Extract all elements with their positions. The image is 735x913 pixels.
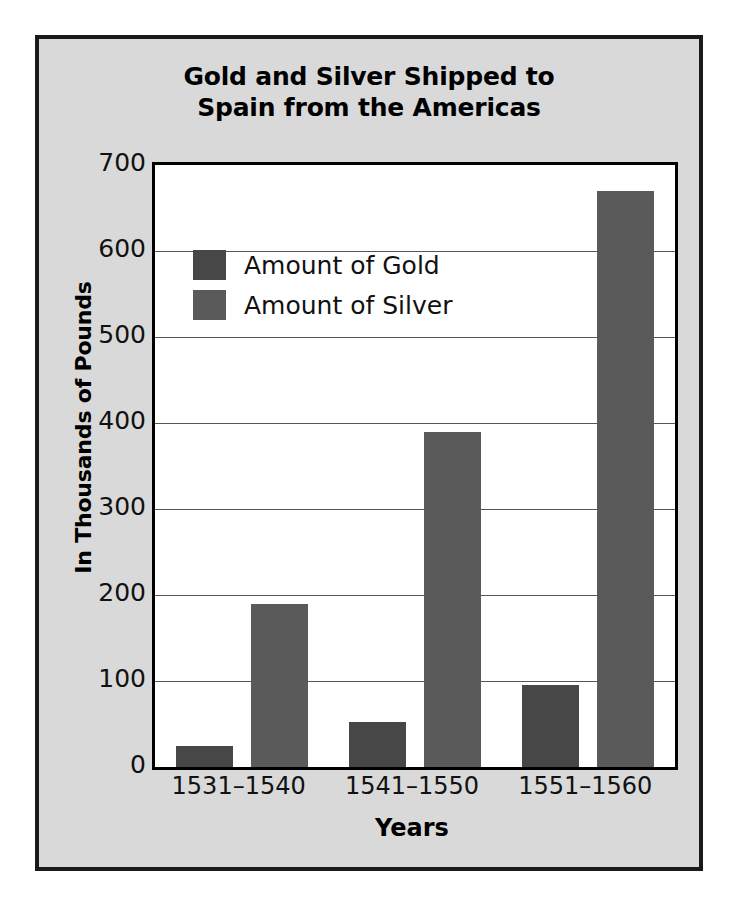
y-axis-tick-label: 0	[74, 750, 146, 779]
plot-area: Amount of GoldAmount of Silver	[152, 162, 678, 770]
chart-legend: Amount of GoldAmount of Silver	[193, 245, 452, 325]
y-axis-tick-label: 600	[74, 234, 146, 263]
legend-swatch-icon	[193, 290, 226, 320]
y-axis-tick-label: 200	[74, 578, 146, 607]
bar-gold-1541–1550	[349, 722, 406, 767]
chart-figure-frame: Gold and Silver Shipped to Spain from th…	[35, 35, 703, 871]
x-axis-tick-labels: 1531–15401541–15501551–1560	[152, 772, 672, 808]
x-axis-tick-label: 1531–1540	[152, 772, 325, 808]
x-axis-tick-label: 1541–1550	[325, 772, 498, 808]
x-axis-tick-label: 1551–1560	[499, 772, 672, 808]
legend-item: Amount of Gold	[193, 245, 452, 285]
y-axis-tick-label: 500	[74, 320, 146, 349]
chart-title: Gold and Silver Shipped to Spain from th…	[39, 61, 699, 123]
legend-label: Amount of Silver	[244, 291, 452, 320]
bar-gold-1531–1540	[176, 746, 233, 768]
y-axis-tick-label: 300	[74, 492, 146, 521]
y-axis-tick-label: 700	[74, 148, 146, 177]
legend-label: Amount of Gold	[244, 251, 440, 280]
y-axis-tick-label: 400	[74, 406, 146, 435]
x-axis-title: Years	[152, 814, 672, 842]
bar-silver-1531–1540	[251, 604, 308, 767]
legend-swatch-icon	[193, 250, 226, 280]
y-axis-tick-labels: 0100200300400500600700	[62, 162, 146, 764]
bar-silver-1541–1550	[424, 432, 481, 767]
plot-inner: Amount of GoldAmount of Silver	[155, 165, 675, 767]
bar-silver-1551–1560	[597, 191, 654, 767]
legend-item: Amount of Silver	[193, 285, 452, 325]
bar-gold-1551–1560	[522, 685, 579, 767]
y-axis-tick-label: 100	[74, 664, 146, 693]
